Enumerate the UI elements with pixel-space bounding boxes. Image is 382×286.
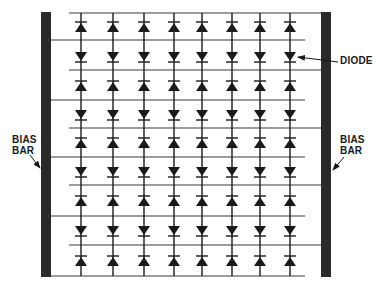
diode-up-icon — [284, 22, 296, 32]
diode-up-icon — [107, 138, 119, 148]
diode-down-icon — [168, 52, 180, 62]
diode-up-icon — [75, 196, 87, 206]
diode-up-icon — [168, 196, 180, 206]
diode-array-diagram — [0, 0, 382, 286]
diode-pointer-arrow-icon — [298, 57, 338, 62]
diode-down-icon — [226, 226, 238, 236]
diode-up-icon — [226, 196, 238, 206]
left-bias-bar-label: BIAS BAR — [12, 134, 37, 156]
left-bias-label-line2: BAR — [12, 145, 37, 156]
diode-down-icon — [226, 167, 238, 177]
diode-up-icon — [75, 256, 87, 266]
diode-down-icon — [107, 167, 119, 177]
diode-up-icon — [254, 196, 266, 206]
left-bias-bar — [41, 12, 51, 277]
diode-down-icon — [284, 52, 296, 62]
diode-up-icon — [226, 138, 238, 148]
diode-up-icon — [226, 81, 238, 91]
diode-down-icon — [196, 167, 208, 177]
diode-up-icon — [107, 22, 119, 32]
diode-up-icon — [196, 256, 208, 266]
diode-down-icon — [168, 110, 180, 120]
diode-down-icon — [107, 226, 119, 236]
right-bias-label-line1: BIAS — [340, 134, 365, 145]
left-bias-pointer-arrow-icon — [30, 155, 40, 168]
right-bias-label-line2: BAR — [340, 145, 365, 156]
label-arrows — [30, 57, 344, 170]
diode-up-icon — [168, 256, 180, 266]
diode-up-icon — [196, 196, 208, 206]
diode-up-icon — [284, 256, 296, 266]
diode-down-icon — [75, 110, 87, 120]
diode-down-icon — [138, 226, 150, 236]
diode-up-icon — [138, 22, 150, 32]
diode-down-icon — [168, 226, 180, 236]
diode-down-icon — [107, 110, 119, 120]
diode-down-icon — [254, 226, 266, 236]
diode-down-icon — [284, 226, 296, 236]
diode-up-icon — [138, 196, 150, 206]
diode-up-icon — [284, 138, 296, 148]
diode-up-icon — [75, 81, 87, 91]
diode-up-icon — [196, 138, 208, 148]
diode-up-icon — [254, 81, 266, 91]
diode-up-icon — [226, 256, 238, 266]
diode-down-icon — [254, 167, 266, 177]
right-bias-pointer-arrow-icon — [333, 157, 344, 170]
diode-down-icon — [196, 226, 208, 236]
diode-down-icon — [284, 167, 296, 177]
diode-up-icon — [254, 138, 266, 148]
diode-up-icon — [75, 22, 87, 32]
diode-down-icon — [226, 110, 238, 120]
diode-down-icon — [254, 110, 266, 120]
diode-up-icon — [196, 81, 208, 91]
diode-up-icon — [107, 256, 119, 266]
diode-down-icon — [196, 52, 208, 62]
diode-up-icon — [168, 138, 180, 148]
diode-down-icon — [226, 52, 238, 62]
diode-down-icon — [138, 167, 150, 177]
diode-up-icon — [138, 81, 150, 91]
right-bias-bar-label: BIAS BAR — [340, 134, 365, 156]
diode-up-icon — [196, 22, 208, 32]
diode-down-icon — [168, 167, 180, 177]
diode-down-icon — [75, 52, 87, 62]
diode-up-icon — [107, 196, 119, 206]
diode-down-icon — [284, 110, 296, 120]
diode-down-icon — [196, 110, 208, 120]
diode-up-icon — [254, 22, 266, 32]
right-bias-bar — [321, 12, 331, 277]
diode-up-icon — [107, 81, 119, 91]
diode-down-icon — [254, 52, 266, 62]
horizontal-conductors — [51, 13, 321, 276]
diode-down-icon — [75, 167, 87, 177]
diode-up-icon — [226, 22, 238, 32]
diode-down-icon — [107, 52, 119, 62]
diode-up-icon — [284, 196, 296, 206]
diode-up-icon — [138, 138, 150, 148]
diode-up-icon — [138, 256, 150, 266]
left-bias-label-line1: BIAS — [12, 134, 37, 145]
diode-label: DIODE — [340, 55, 373, 66]
diode-down-icon — [75, 226, 87, 236]
diode-down-icon — [138, 110, 150, 120]
diode-up-icon — [284, 81, 296, 91]
diode-down-icon — [138, 52, 150, 62]
diode-up-icon — [254, 256, 266, 266]
diode-grid — [75, 22, 296, 266]
diode-up-icon — [168, 22, 180, 32]
diode-label-text: DIODE — [340, 55, 373, 66]
diode-up-icon — [75, 138, 87, 148]
diode-up-icon — [168, 81, 180, 91]
